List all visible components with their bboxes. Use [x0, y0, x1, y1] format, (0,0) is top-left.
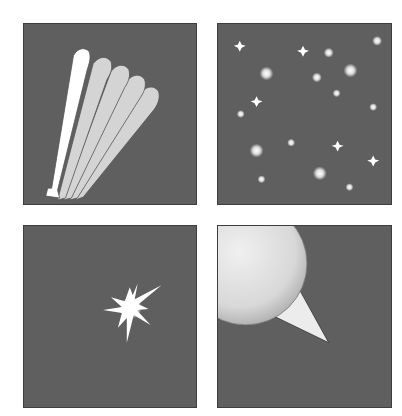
panel-bright-star — [23, 225, 197, 408]
starburst-icon — [24, 226, 196, 407]
panel-star-field — [217, 23, 392, 205]
panel-comet-tail-fan — [23, 23, 197, 205]
star-field-icon — [218, 24, 391, 204]
fan-strips-icon — [24, 24, 196, 204]
comet-sphere-icon — [218, 226, 391, 407]
panel-comet-head — [217, 225, 392, 408]
